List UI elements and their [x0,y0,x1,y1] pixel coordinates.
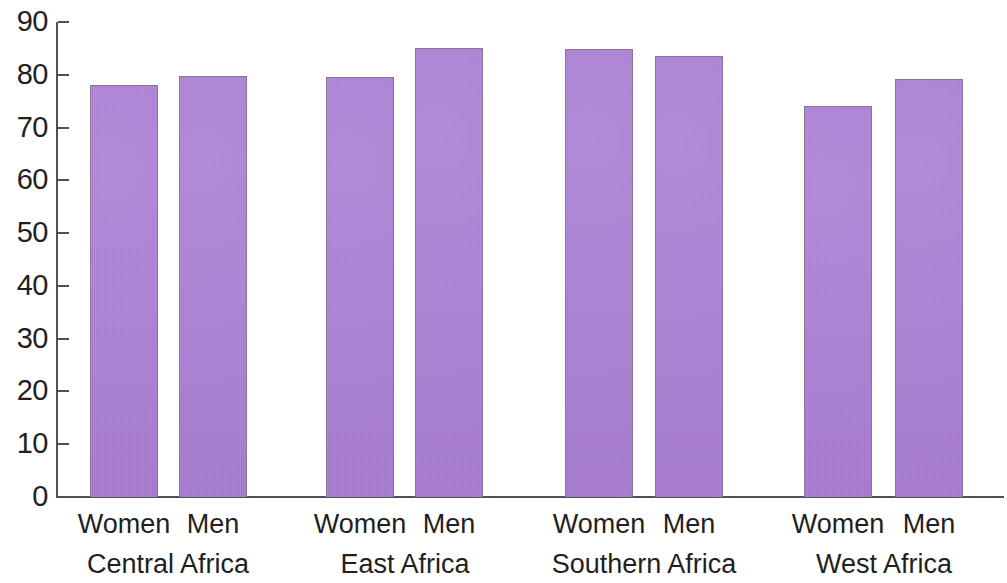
bar-southern-africa-women [565,49,633,497]
group-label: West Africa [744,549,1007,579]
bar-west-africa-women [804,106,872,497]
bar-east-africa-women [326,77,394,497]
plot-area [0,0,1007,583]
bar-central-africa-men [179,76,247,497]
bar-east-africa-men [415,48,483,497]
group-label: East Africa [265,549,545,579]
series-label: Men [859,509,999,539]
bar-central-africa-women [90,85,158,497]
series-label: Men [619,509,759,539]
group-label: Southern Africa [504,549,784,579]
bar-west-africa-men [895,79,963,497]
series-label: Men [379,509,519,539]
bar-chart: 9080706050403020100 WomenMenWomenMenWome… [0,0,1007,583]
series-label: Men [143,509,283,539]
bar-southern-africa-men [655,56,723,497]
